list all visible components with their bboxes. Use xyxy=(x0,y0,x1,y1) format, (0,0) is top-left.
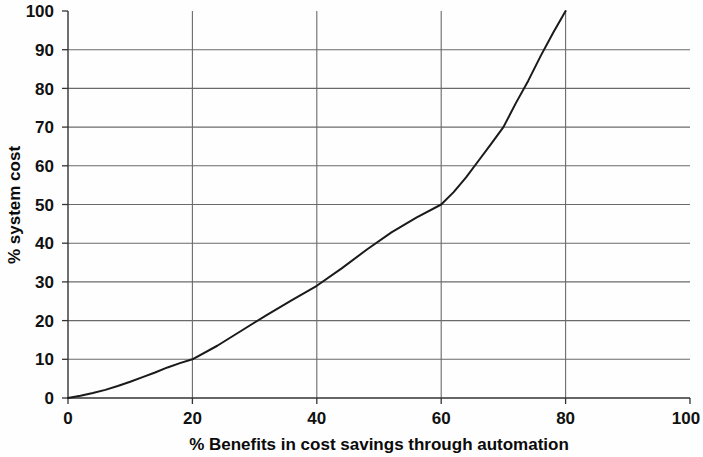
y-tick-label: 50 xyxy=(35,196,54,215)
line-chart: 100 90 80 70 60 50 40 30 20 10 0 0 20 40… xyxy=(0,0,703,457)
y-tick-label: 0 xyxy=(45,389,54,408)
y-tick-label: 40 xyxy=(35,234,54,253)
y-tick-label: 10 xyxy=(35,350,54,369)
x-tick-label: 0 xyxy=(63,409,72,428)
y-axis-title: % system cost xyxy=(5,146,24,264)
y-tick-label: 70 xyxy=(35,118,54,137)
y-tick-label: 20 xyxy=(35,312,54,331)
y-tick-label: 80 xyxy=(35,80,54,99)
y-tick-label: 60 xyxy=(35,157,54,176)
chart-background xyxy=(0,0,703,457)
x-tick-label: 40 xyxy=(307,409,326,428)
x-tick-label: 100 xyxy=(672,409,700,428)
y-tick-label: 30 xyxy=(35,273,54,292)
chart-figure: 100 90 80 70 60 50 40 30 20 10 0 0 20 40… xyxy=(0,0,703,457)
x-axis-title: % Benefits in cost savings through autom… xyxy=(189,435,569,454)
x-tick-label: 60 xyxy=(432,409,451,428)
x-tick-label: 80 xyxy=(556,409,575,428)
x-tick-label: 20 xyxy=(183,409,202,428)
y-tick-label: 90 xyxy=(35,41,54,60)
y-tick-label: 100 xyxy=(26,2,54,21)
